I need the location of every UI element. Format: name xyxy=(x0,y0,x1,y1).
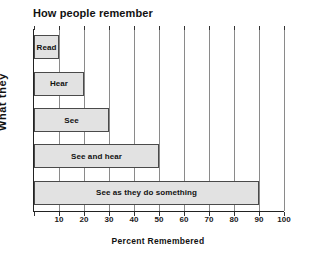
x-axis-tick-label: 40 xyxy=(130,215,139,224)
gridline xyxy=(259,29,260,211)
bar: Read xyxy=(34,35,59,59)
x-axis-tick-top xyxy=(84,26,85,30)
x-axis-tick-top xyxy=(34,26,35,30)
x-axis-tick xyxy=(34,212,35,216)
x-axis-tick-top xyxy=(59,26,60,30)
x-axis-tick-label: 100 xyxy=(277,215,290,224)
x-axis-tick-label: 30 xyxy=(105,215,114,224)
x-axis-tick-top xyxy=(209,26,210,30)
x-axis-tick-label: 70 xyxy=(205,215,214,224)
y-axis-title: What they xyxy=(0,73,8,131)
x-axis-tick-label: 90 xyxy=(255,215,264,224)
bar: See as they do something xyxy=(34,181,259,205)
x-axis-tick-label: 60 xyxy=(180,215,189,224)
bar-label: See xyxy=(64,116,79,125)
bar: See xyxy=(34,108,109,132)
x-axis-tick-top xyxy=(234,26,235,30)
bar: See and hear xyxy=(34,144,159,168)
x-axis-tick-top xyxy=(259,26,260,30)
x-axis-tick-label: 20 xyxy=(80,215,89,224)
x-axis-tick-top xyxy=(109,26,110,30)
bar-chart: How people remember What they 1020304050… xyxy=(0,0,312,259)
bar: Hear xyxy=(34,72,84,96)
x-axis-tick-label: 50 xyxy=(155,215,164,224)
x-axis-tick-label: 10 xyxy=(55,215,64,224)
bar-label: See as they do something xyxy=(96,188,197,197)
chart-title: How people remember xyxy=(33,7,153,19)
x-axis-tick-label: 80 xyxy=(230,215,239,224)
bar-label: See and hear xyxy=(71,152,122,161)
gridline xyxy=(284,29,285,211)
x-axis-tick-top xyxy=(284,26,285,30)
plot-area: 102030405060708090100ReadHearSeeSee and … xyxy=(33,29,284,212)
bar-label: Read xyxy=(37,43,57,52)
bar-label: Hear xyxy=(50,79,68,88)
x-axis-title: Percent Remembered xyxy=(112,236,205,246)
x-axis-tick-top xyxy=(184,26,185,30)
x-axis-tick-top xyxy=(134,26,135,30)
x-axis-tick-top xyxy=(159,26,160,30)
